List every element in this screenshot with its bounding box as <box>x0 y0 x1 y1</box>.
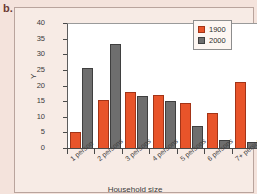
legend-label-1900: 1900 <box>209 25 226 34</box>
figure-letter: b. <box>3 2 13 14</box>
legend-swatch-1900 <box>198 26 205 33</box>
bar-1900-4-persons <box>153 95 164 148</box>
legend-item-2000: 2000 <box>198 35 226 46</box>
bar-1900-2-persons <box>98 100 109 148</box>
bar-2000-2-persons <box>110 44 121 148</box>
chart-legend: 1900 2000 <box>193 20 232 50</box>
y-axis-tick-label: 40 <box>27 19 45 27</box>
y-axis-tick-label: 35 <box>27 35 45 43</box>
y-axis-tick-label: 30 <box>27 50 45 58</box>
y-axis-tick-label: 15 <box>27 97 45 105</box>
y-axis-tick-label: 20 <box>27 82 45 90</box>
x-axis-tick <box>149 149 150 154</box>
legend-item-1900: 1900 <box>198 24 226 35</box>
bar-2000-1-person <box>82 68 93 148</box>
legend-swatch-2000 <box>198 37 205 44</box>
x-axis-tick <box>177 149 178 154</box>
x-axis-tick <box>204 149 205 154</box>
bar-1900-6-persons <box>207 113 218 148</box>
legend-label-2000: 2000 <box>209 36 226 45</box>
y-axis-tick-label: 0 <box>27 144 45 152</box>
y-axis-tick-label: 10 <box>27 113 45 121</box>
bar-1900-5-persons <box>180 103 191 148</box>
x-axis-tick <box>67 149 68 154</box>
chart-frame: 0510152025303540 Y Household size 1900 2… <box>14 7 254 193</box>
y-axis-tick-label: 5 <box>27 128 45 136</box>
x-axis-tick <box>122 149 123 154</box>
y-axis: 0510152025303540 <box>45 8 67 194</box>
x-axis-tick <box>232 149 233 154</box>
x-axis-title: Household size <box>15 185 255 194</box>
bar-1900-7-persons <box>235 82 246 148</box>
x-axis-tick <box>94 149 95 154</box>
chart-screenshot: b. 0510152025303540 Y Household size 190… <box>0 0 257 194</box>
bar-1900-1-person <box>70 132 81 148</box>
y-axis-title: Y <box>29 74 38 79</box>
bar-1900-3-persons <box>125 92 136 148</box>
